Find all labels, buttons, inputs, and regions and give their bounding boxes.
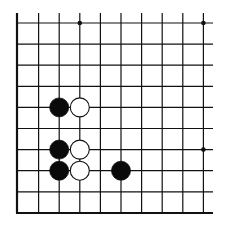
black-stone[interactable] [112,161,131,180]
stones-layer [50,98,131,180]
white-stone[interactable] [70,140,89,159]
white-stone[interactable] [70,161,89,180]
black-stone[interactable] [50,161,69,180]
star-point-icon [201,21,206,26]
board-grid [16,13,213,213]
black-stone[interactable] [50,98,69,117]
star-point-icon [78,21,83,26]
white-stone[interactable] [70,98,89,117]
go-board[interactable] [0,0,228,229]
star-point-icon [201,147,206,152]
black-stone[interactable] [50,140,69,159]
